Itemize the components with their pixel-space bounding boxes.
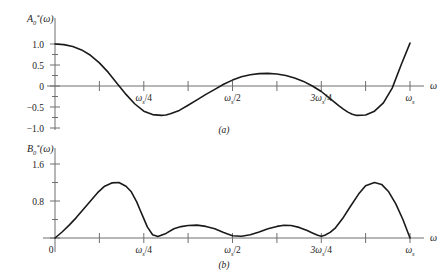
figure-container: A0*(ω) 1.0 0.5 0 −0.5 −1.0 ωs/4 ωs/2 3ωs…	[0, 0, 448, 279]
x-ticklabel-b-threequarter: 3ωs/4	[310, 245, 333, 257]
x-ticklabel-b-full: ωs	[405, 245, 415, 257]
panel-b: B0*(ω) 1.6 0.8 0 ωs/4 ωs/2 3ωs/4 ωs ω (b…	[0, 140, 448, 279]
y-ticklabel-a-2: 0.5	[32, 61, 44, 71]
y-ticklabel-b-2: 0.8	[32, 197, 44, 207]
x-ticklabel-b-half: ωs/2	[224, 245, 241, 257]
y-ticklabel-a-3: 0	[39, 82, 44, 92]
x-ticklabel-a-half: ωs/2	[224, 93, 241, 105]
y-ticklabel-b-3: 0	[49, 245, 54, 255]
x-ticklabel-b-quarter: ωs/4	[135, 245, 152, 257]
y-axis-title-b: B0*(ω)	[27, 143, 54, 156]
y-ticklabel-b-1: 1.6	[32, 160, 44, 170]
x-ticklabel-a-quarter: ωs/4	[135, 93, 152, 105]
panel-caption-b: (b)	[218, 260, 229, 271]
panel-caption-a: (a)	[218, 125, 229, 136]
x-ticklabel-a-full: ωs	[405, 93, 415, 105]
x-axis-title-b: ω	[430, 232, 437, 243]
y-ticklabel-a-4: −0.5	[27, 103, 44, 113]
plot-b-labels: B0*(ω) 1.6 0.8 0 ωs/4 ωs/2 3ωs/4 ωs ω (b…	[0, 140, 448, 279]
y-ticklabel-a-1: 1.0	[32, 40, 44, 50]
y-ticklabel-a-5: −1.0	[27, 124, 44, 134]
plot-a-labels: A0*(ω) 1.0 0.5 0 −0.5 −1.0 ωs/4 ωs/2 3ωs…	[0, 0, 448, 139]
y-axis-title-a: A0*(ω)	[26, 13, 54, 26]
x-axis-title-a: ω	[430, 80, 437, 91]
panel-a: A0*(ω) 1.0 0.5 0 −0.5 −1.0 ωs/4 ωs/2 3ωs…	[0, 0, 448, 139]
x-ticklabel-a-threequarter: 3ωs/4	[310, 93, 333, 105]
